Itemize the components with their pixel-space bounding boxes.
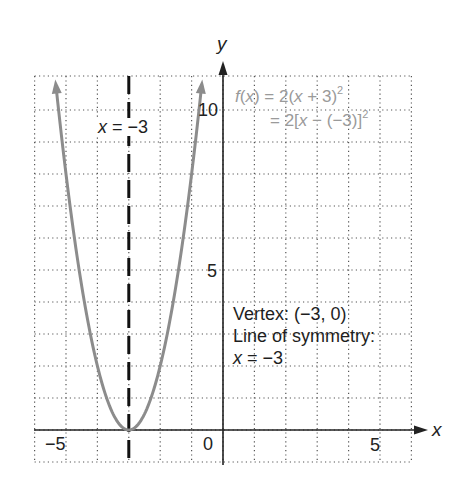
formula-x2: x	[294, 87, 303, 106]
axes	[34, 61, 428, 465]
y-tick-label-10: 10	[198, 101, 218, 119]
x-axis-arrow-icon	[414, 426, 428, 435]
formula-x: x	[245, 87, 254, 106]
graph-area	[0, 0, 455, 493]
formula2-start: = 2[	[270, 111, 299, 130]
symmetry-equation: x = −3	[233, 349, 283, 367]
symmetry-label-value: = −3	[107, 117, 148, 137]
vertex-text: Vertex: (−3, 0)	[233, 305, 347, 323]
x-axis-label: x	[432, 420, 442, 439]
y-tick-label-5: 5	[207, 262, 217, 280]
symmetry-eq-var: x	[233, 348, 242, 368]
parabola-left-arrow-icon	[52, 80, 62, 94]
parabola-right-arrow-icon	[196, 80, 206, 94]
symmetry-title: Line of symmetry:	[233, 327, 375, 345]
y-axis-label: y	[217, 34, 227, 53]
function-formula-line2: = 2[x − (−3)]2	[270, 112, 368, 129]
formula2-exponent: 2	[362, 108, 368, 120]
symmetry-label-var: x	[98, 117, 107, 137]
x-tick-label-neg5: −5	[45, 435, 66, 453]
symmetry-eq-value: = −3	[242, 348, 283, 368]
x-tick-label-0: 0	[203, 435, 213, 453]
x-tick-label-5: 5	[370, 436, 380, 454]
formula-mid: ) = 2(	[254, 87, 294, 106]
symmetry-line-label: x = −3	[96, 118, 150, 136]
formula-exponent: 2	[337, 84, 343, 96]
y-axis-arrow-icon	[219, 61, 228, 75]
formula2-end: − (−3)]	[307, 111, 362, 130]
function-formula-line1: f(x) = 2(x + 3)2	[235, 88, 343, 105]
formula-end: + 3)	[303, 87, 338, 106]
